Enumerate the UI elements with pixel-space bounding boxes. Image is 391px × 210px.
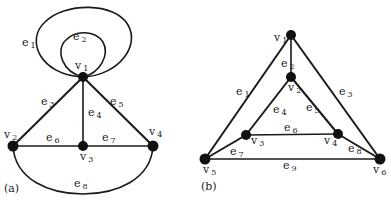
vertex-a-v4 xyxy=(148,141,159,152)
label-a-v3: v3 xyxy=(79,150,93,164)
vertex-a-v1 xyxy=(78,72,88,82)
caption-a: (a) xyxy=(4,182,19,195)
label-a-v1: v1 xyxy=(74,59,88,73)
label-a-e6: e6 xyxy=(46,131,60,145)
vertex-b-v4 xyxy=(333,129,343,139)
label-b-v3: v3 xyxy=(250,134,264,148)
label-a-e4: e4 xyxy=(88,106,102,120)
label-b-e3: e3 xyxy=(339,85,353,99)
figure-b: v1 v2 v3 v4 v5 v6 e1 e2 e3 e4 e5 e6 e7 e… xyxy=(200,30,387,193)
label-b-e1: e1 xyxy=(236,85,250,99)
label-b-e6: e6 xyxy=(284,121,298,135)
label-a-e5: e5 xyxy=(110,95,124,109)
label-a-e1: e1 xyxy=(22,36,36,50)
label-b-v5: v5 xyxy=(202,163,216,177)
vertex-a-v2 xyxy=(8,141,19,152)
vertex-b-v3 xyxy=(241,130,251,140)
label-b-e2: e2 xyxy=(281,57,295,71)
label-b-v2: v2 xyxy=(287,81,301,95)
caption-b: (b) xyxy=(201,180,217,193)
label-b-e4: e4 xyxy=(273,103,287,117)
figure-a: v1 v2 v3 v4 e1 e2 e3 e4 e5 e6 e7 e8 (a) xyxy=(3,7,162,195)
label-b-e9: e9 xyxy=(283,159,297,173)
label-a-e8: e8 xyxy=(74,177,88,191)
label-a-e7: e7 xyxy=(102,131,116,145)
graph-figures: v1 v2 v3 v4 e1 e2 e3 e4 e5 e6 e7 e8 (a) … xyxy=(0,0,391,210)
label-a-e3: e3 xyxy=(41,95,55,109)
vertex-b-v1 xyxy=(286,30,296,40)
label-a-v2: v2 xyxy=(3,128,17,142)
label-b-v6: v6 xyxy=(372,163,386,177)
label-a-v4: v4 xyxy=(148,125,162,139)
label-b-e7: e7 xyxy=(230,145,244,159)
label-b-v1: v1 xyxy=(273,31,287,45)
